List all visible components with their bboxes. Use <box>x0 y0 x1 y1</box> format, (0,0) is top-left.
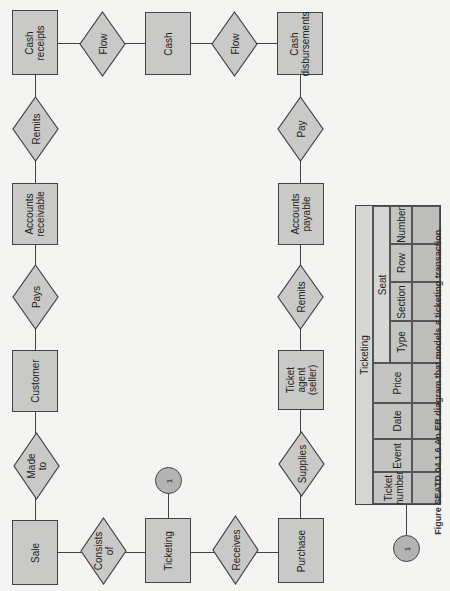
entity-label: Customer <box>30 359 41 402</box>
group-header-label: Seat <box>376 274 387 295</box>
column-header-type: Type <box>390 321 412 363</box>
connector-circle-1-top[interactable]: 1 <box>155 467 182 494</box>
relationship-label: Remits <box>295 281 306 312</box>
entity-cash[interactable]: Cash <box>145 12 191 75</box>
relationship-label: Madeto <box>26 453 48 478</box>
entity-label: Sale <box>30 542 41 562</box>
relationship-label: Flow <box>97 33 108 54</box>
column-header-event: Event <box>373 439 412 472</box>
relationship-pays[interactable]: Pays <box>12 264 59 330</box>
relationship-label: Flow <box>229 33 240 54</box>
entity-cash-receipts[interactable]: Cashreceipts <box>12 10 58 75</box>
entity-accounts-receivable[interactable]: Accountsreceivable <box>12 183 58 245</box>
entity-accounts-payable[interactable]: Accountspayable <box>278 183 324 245</box>
entity-cash-disbursements[interactable]: Cashdisbursements <box>277 12 323 75</box>
entity-label: Ticketing <box>163 531 174 571</box>
relationship-label: Supplies <box>296 445 307 483</box>
entity-label: Accountsreceivable <box>24 191 46 237</box>
connector-label: 1 <box>401 546 412 550</box>
column-header-price: Price <box>373 363 412 403</box>
entity-sale[interactable]: Sale <box>12 520 58 585</box>
connector-circle-1-table[interactable]: 1 <box>393 535 420 562</box>
caption-text: Figure SEATD.04.1.6 An ER diagram that m… <box>433 227 444 535</box>
entity-label: Cashdisbursements <box>289 11 311 76</box>
entity-label: Cash <box>163 32 174 55</box>
relationship-flow-1[interactable]: Flow <box>79 11 126 77</box>
entity-customer[interactable]: Customer <box>12 350 58 412</box>
entity-purchase[interactable]: Purchase <box>278 518 324 583</box>
column-header-ticket-number: Ticketnumber <box>373 472 412 504</box>
table-title: Ticketing <box>359 335 370 375</box>
relationship-label: Receives <box>230 529 241 570</box>
relationship-consists-of[interactable]: Consistsof <box>80 517 127 585</box>
relationship-flow-2[interactable]: Flow <box>211 11 258 77</box>
entity-label: Cashreceipts <box>24 25 46 60</box>
entity-ticket-agent[interactable]: Ticketagent(seller) <box>278 350 324 410</box>
figure-caption: Figure SEATD.04.1.6 An ER diagram that m… <box>428 170 448 591</box>
entity-label: Accountspayable <box>290 193 312 234</box>
entity-label: Purchase <box>296 529 307 571</box>
relationship-pay[interactable]: Pay <box>277 96 324 162</box>
relationship-remits-1[interactable]: Remits <box>12 96 59 162</box>
relationship-remits-2[interactable]: Remits <box>277 264 324 330</box>
connector-line <box>406 505 407 535</box>
relationship-receives[interactable]: Receives <box>212 515 259 585</box>
column-header-section: Section <box>390 282 412 321</box>
column-header-date: Date <box>373 403 412 439</box>
relationship-label: Consistsof <box>93 532 115 570</box>
er-diagram: Cashreceipts Cash Cashdisbursements Acco… <box>0 0 450 591</box>
connector-line <box>168 493 169 518</box>
relationship-label: Remits <box>30 113 41 144</box>
column-header-number: Number <box>390 206 412 244</box>
relationship-made-to[interactable]: Madeto <box>13 432 60 500</box>
relationship-label: Pay <box>295 120 306 137</box>
relationship-supplies[interactable]: Supplies <box>278 431 325 497</box>
entity-ticketing[interactable]: Ticketing <box>145 518 191 583</box>
column-header-row: Row <box>390 244 412 282</box>
entity-label: Ticketagent(seller) <box>285 365 318 396</box>
table-group-header-seat: Seat <box>373 206 390 363</box>
connector-label: 1 <box>163 478 174 482</box>
relationship-label: Pays <box>30 286 41 308</box>
table-title-cell: Ticketing <box>356 206 373 504</box>
